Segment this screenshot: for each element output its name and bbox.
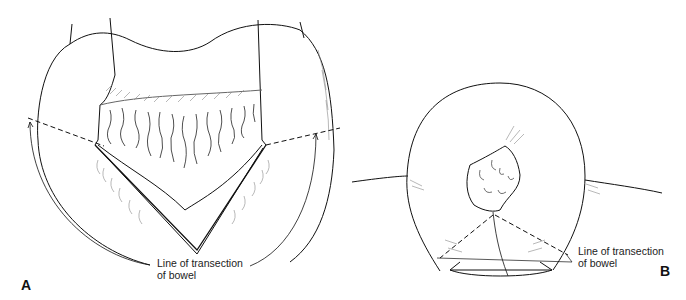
panel-label-a: A <box>21 277 31 293</box>
panel-a-annotation: Line of transection of bowel <box>157 257 243 281</box>
panel-a-drawing <box>28 18 340 266</box>
panel-b-annotation-line1: Line of transection <box>578 245 664 257</box>
panel-a-annotation-line2: of bowel <box>157 269 243 281</box>
panel-a-annotation-line1: Line of transection <box>157 257 243 269</box>
panel-b-annotation: Line of transection of bowel <box>578 245 664 269</box>
panel-b-annotation-line2: of bowel <box>578 257 664 269</box>
